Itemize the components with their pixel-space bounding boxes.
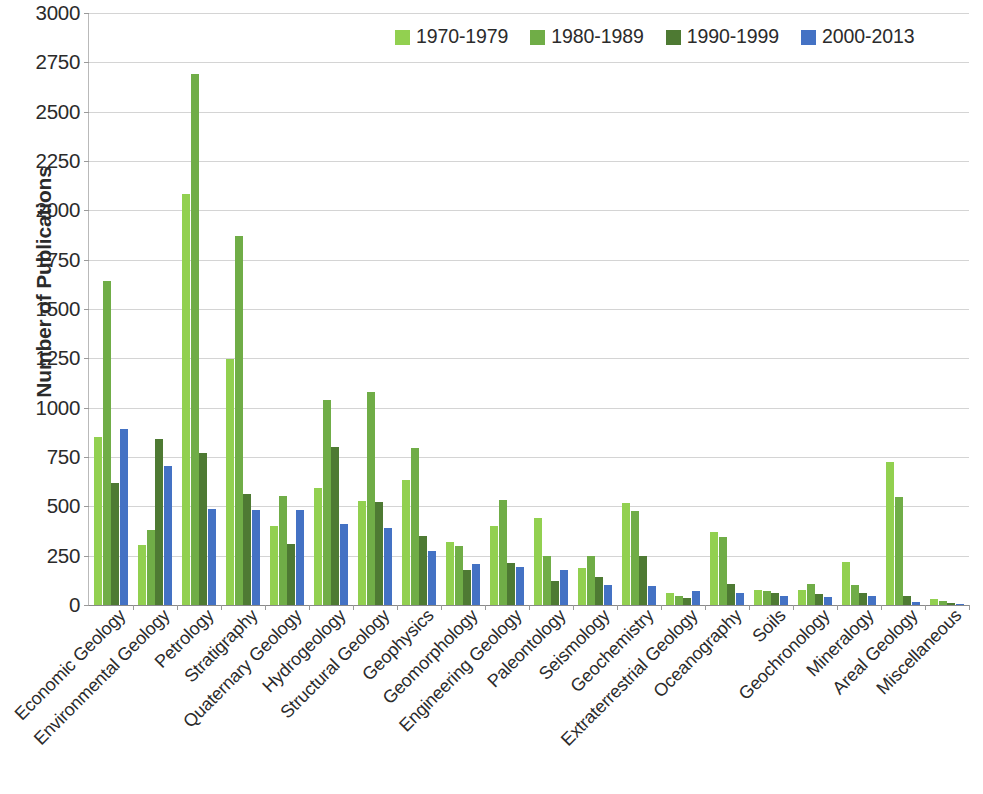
bar[interactable]: [428, 551, 436, 605]
bar[interactable]: [886, 462, 894, 605]
bar[interactable]: [507, 563, 515, 605]
y-axis-tick-label: 250: [0, 546, 80, 567]
bar[interactable]: [631, 511, 639, 605]
publications-bar-chart: 1970-19791980-19891990-19992000-2013 Num…: [0, 0, 983, 794]
bar[interactable]: [895, 497, 903, 605]
bar[interactable]: [710, 532, 718, 605]
y-axis-tick-label: 2750: [0, 52, 80, 73]
bar-group: [749, 13, 793, 605]
bar[interactable]: [754, 590, 762, 605]
bar[interactable]: [358, 501, 366, 605]
bar[interactable]: [490, 526, 498, 605]
bar[interactable]: [455, 546, 463, 605]
bar[interactable]: [287, 544, 295, 605]
bar[interactable]: [199, 453, 207, 605]
y-axis-tick-label: 750: [0, 447, 80, 468]
bar[interactable]: [279, 496, 287, 605]
bar-group: [617, 13, 661, 605]
bar[interactable]: [534, 518, 542, 605]
bar[interactable]: [516, 567, 524, 605]
bar-group: [309, 13, 353, 605]
bar[interactable]: [296, 510, 304, 605]
bar[interactable]: [103, 281, 111, 605]
bar[interactable]: [463, 570, 471, 605]
bar[interactable]: [384, 528, 392, 605]
bar[interactable]: [780, 596, 788, 605]
y-axis-tick-label: 1750: [0, 250, 80, 271]
bar[interactable]: [842, 562, 850, 605]
bar[interactable]: [94, 437, 102, 605]
bar[interactable]: [807, 584, 815, 605]
bar[interactable]: [798, 590, 806, 605]
bar-group: [925, 13, 969, 605]
bar[interactable]: [235, 236, 243, 605]
bar-group: [881, 13, 925, 605]
bar[interactable]: [208, 509, 216, 605]
bar[interactable]: [912, 602, 920, 605]
bar[interactable]: [138, 545, 146, 605]
bar[interactable]: [270, 526, 278, 605]
bar[interactable]: [736, 593, 744, 605]
bar[interactable]: [903, 596, 911, 605]
bar[interactable]: [683, 598, 691, 605]
bar[interactable]: [604, 585, 612, 605]
bar[interactable]: [930, 599, 938, 605]
bar[interactable]: [411, 448, 419, 605]
bar[interactable]: [771, 593, 779, 605]
bar-group: [573, 13, 617, 605]
bar[interactable]: [859, 593, 867, 605]
bar[interactable]: [243, 494, 251, 605]
bar[interactable]: [367, 392, 375, 605]
bar[interactable]: [578, 568, 586, 605]
bar[interactable]: [666, 593, 674, 605]
bar[interactable]: [375, 502, 383, 605]
bar[interactable]: [815, 594, 823, 605]
bar[interactable]: [551, 581, 559, 605]
bar[interactable]: [314, 488, 322, 605]
bar[interactable]: [675, 596, 683, 605]
bar[interactable]: [648, 586, 656, 605]
bar[interactable]: [824, 597, 832, 605]
bar[interactable]: [226, 359, 234, 605]
bar[interactable]: [147, 530, 155, 605]
bar[interactable]: [543, 556, 551, 605]
bar-group: [221, 13, 265, 605]
bar[interactable]: [939, 601, 947, 605]
bar[interactable]: [323, 400, 331, 605]
bar[interactable]: [252, 510, 260, 605]
y-axis-tick-labels: 0250500750100012501500175020002250250027…: [0, 13, 80, 605]
bar-group: [485, 13, 529, 605]
bar[interactable]: [595, 577, 603, 605]
y-axis-tick-label: 3000: [0, 3, 80, 24]
bar[interactable]: [331, 447, 339, 605]
bar[interactable]: [402, 480, 410, 605]
bar[interactable]: [868, 596, 876, 605]
bar[interactable]: [763, 591, 771, 605]
bar[interactable]: [719, 537, 727, 605]
bar[interactable]: [727, 584, 735, 605]
bar[interactable]: [155, 439, 163, 605]
bar[interactable]: [111, 483, 119, 605]
bar[interactable]: [622, 503, 630, 605]
bar[interactable]: [851, 585, 859, 605]
bar-group: [837, 13, 881, 605]
bar[interactable]: [956, 604, 964, 605]
bar[interactable]: [499, 500, 507, 605]
bar[interactable]: [639, 556, 647, 605]
bar[interactable]: [560, 570, 568, 605]
bar[interactable]: [182, 194, 190, 605]
y-axis-tick-label: 2500: [0, 102, 80, 123]
bar[interactable]: [191, 74, 199, 605]
bar[interactable]: [120, 429, 128, 605]
bar[interactable]: [446, 542, 454, 605]
y-axis-tick-label: 2000: [0, 200, 80, 221]
bar[interactable]: [692, 591, 700, 605]
bar[interactable]: [472, 564, 480, 605]
bar[interactable]: [164, 466, 172, 605]
bar[interactable]: [587, 556, 595, 605]
bar-group: [661, 13, 705, 605]
bar-group: [133, 13, 177, 605]
bar[interactable]: [340, 524, 348, 605]
bar-group: [441, 13, 485, 605]
bar[interactable]: [419, 536, 427, 605]
